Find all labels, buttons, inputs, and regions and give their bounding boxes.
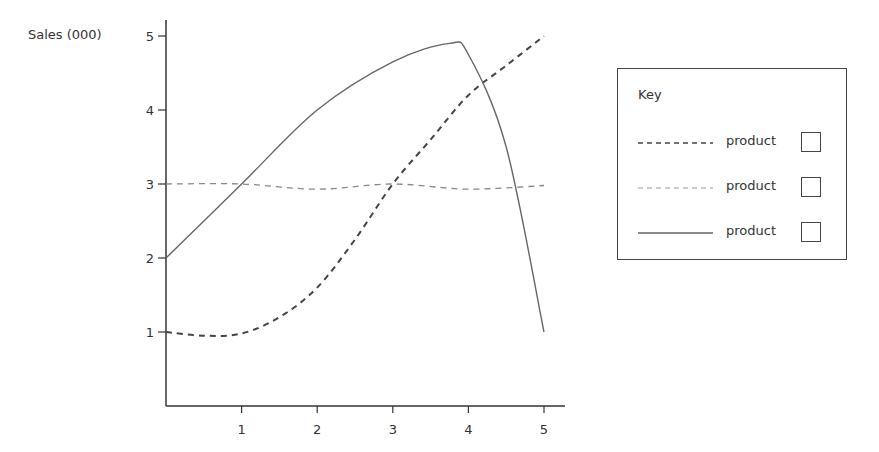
legend-label: product: [726, 223, 776, 238]
series-line-dashed-light: [166, 184, 544, 190]
y-tick-label: 4: [146, 103, 154, 118]
x-tick-label: 5: [540, 422, 548, 437]
y-tick-label: 3: [146, 177, 154, 192]
y-tick-label: 2: [146, 251, 154, 266]
x-tick-label: 2: [313, 422, 321, 437]
x-tick-label: 1: [237, 422, 245, 437]
legend-checkbox: [801, 177, 821, 197]
dashed-light-line-icon: [638, 186, 713, 190]
solid-line-icon: [638, 231, 713, 235]
y-tick-label: 1: [146, 325, 154, 340]
legend-checkbox: [801, 222, 821, 242]
dashed-dark-line-icon: [638, 141, 713, 145]
legend-item-solid: product: [638, 222, 838, 244]
x-tick-label: 4: [464, 422, 472, 437]
legend-label: product: [726, 133, 776, 148]
y-tick-label: 5: [146, 29, 154, 44]
legend: Key product product product: [617, 68, 847, 260]
legend-title: Key: [638, 87, 662, 102]
series-group: [166, 36, 544, 336]
legend-checkbox: [801, 132, 821, 152]
legend-item-dashed-dark: product: [638, 132, 838, 154]
legend-item-dashed-light: product: [638, 177, 838, 199]
legend-label: product: [726, 178, 776, 193]
x-tick-label: 3: [389, 422, 397, 437]
